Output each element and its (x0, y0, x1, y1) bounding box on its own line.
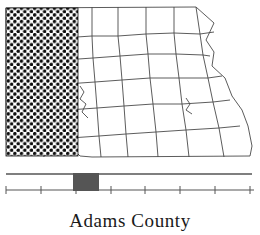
timeline-axis (0, 168, 260, 200)
county-phenology-figure: A M Je Ju A S O Adams County (0, 0, 260, 235)
highlighted-county-adams (6, 8, 78, 156)
active-period-bar (73, 173, 99, 191)
map-panel (0, 0, 260, 162)
flight-period-timeline: A M Je Ju A S O (0, 168, 260, 200)
north-dakota-county-map (0, 0, 260, 162)
figure-caption: Adams County (0, 210, 260, 232)
